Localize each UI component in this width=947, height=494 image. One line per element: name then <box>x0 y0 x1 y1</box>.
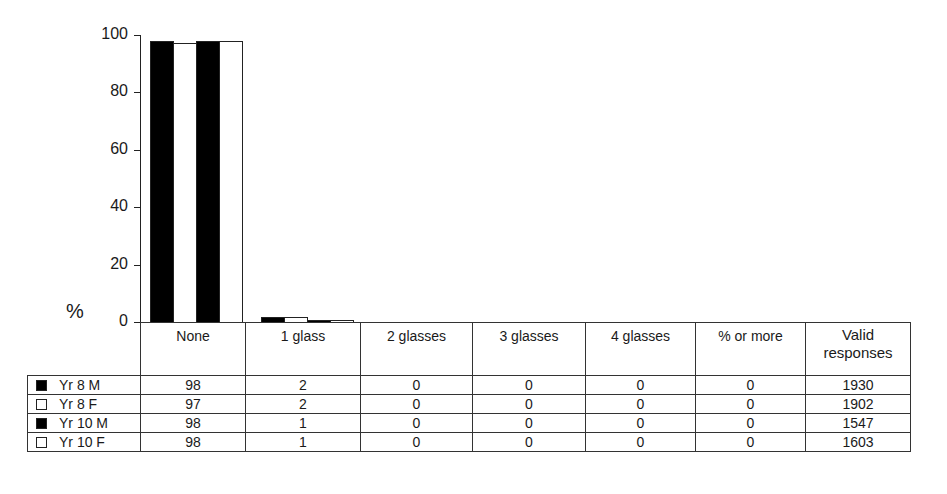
table-cell: 0 <box>586 414 696 433</box>
series-label: Yr 8 F <box>59 396 97 412</box>
table-cell: 98 <box>141 433 246 452</box>
table-cell: 0 <box>696 376 806 395</box>
black-square-icon <box>36 380 47 391</box>
header-2-glasses: 2 glasses <box>361 323 473 376</box>
series-label: Yr 8 M <box>59 377 100 393</box>
table-cell: 1930 <box>806 376 911 395</box>
table-cell: 2 <box>246 395 361 414</box>
legend-cell: Yr 8 M <box>28 376 141 395</box>
table-row: Yr 8 F 97 2 0 0 0 0 1902 <box>28 395 911 414</box>
legend-cell: Yr 10 F <box>28 433 141 452</box>
table-cell: 0 <box>473 414 586 433</box>
valid-header-line2: responses <box>806 344 910 362</box>
y-tick-label: 20 <box>88 255 128 273</box>
data-table: None 1 glass 2 glasses 3 glasses 4 glass… <box>27 322 911 452</box>
y-tick-label: 40 <box>88 197 128 215</box>
table-cell: 1 <box>246 414 361 433</box>
bar-yr10m-none <box>196 41 220 323</box>
y-tick <box>134 92 140 93</box>
header-none: None <box>141 323 246 376</box>
header-1-glass: 1 glass <box>246 323 361 376</box>
bar-yr8m-none <box>150 41 174 323</box>
bar-yr10f-none <box>219 41 243 323</box>
table-cell: 1547 <box>806 414 911 433</box>
table-cell: 1603 <box>806 433 911 452</box>
header-valid-responses: Valid responses <box>806 323 911 376</box>
y-axis-line <box>140 35 141 323</box>
header-5-or-more: % or more <box>696 323 806 376</box>
y-tick-label: 100 <box>88 25 128 43</box>
y-tick-label: 60 <box>88 140 128 158</box>
table-row: Yr 8 M 98 2 0 0 0 0 1930 <box>28 376 911 395</box>
bar-yr8f-none <box>173 43 197 323</box>
table-cell: 0 <box>361 395 473 414</box>
black-square-icon <box>36 418 47 429</box>
table-cell: 0 <box>361 376 473 395</box>
valid-header-line1: Valid <box>806 326 910 344</box>
table-cell: 0 <box>473 433 586 452</box>
legend-cell: Yr 10 M <box>28 414 141 433</box>
header-4-glasses: 4 glasses <box>586 323 696 376</box>
y-tick-label: 80 <box>88 82 128 100</box>
y-tick <box>134 207 140 208</box>
table-cell: 1 <box>246 433 361 452</box>
y-axis-label: % <box>66 300 84 323</box>
table-cell: 0 <box>696 433 806 452</box>
table-row: Yr 10 F 98 1 0 0 0 0 1603 <box>28 433 911 452</box>
table-cell: 0 <box>473 376 586 395</box>
y-tick <box>134 35 140 36</box>
table-header-row: None 1 glass 2 glasses 3 glasses 4 glass… <box>28 323 911 376</box>
legend-cell: Yr 8 F <box>28 395 141 414</box>
table-cell: 0 <box>586 433 696 452</box>
table-cell: 98 <box>141 414 246 433</box>
table-cell: 98 <box>141 376 246 395</box>
header-blank <box>28 323 141 376</box>
table-row: Yr 10 M 98 1 0 0 0 0 1547 <box>28 414 911 433</box>
table-cell: 0 <box>696 395 806 414</box>
table-cell: 0 <box>361 433 473 452</box>
series-label: Yr 10 M <box>59 415 108 431</box>
series-label: Yr 10 F <box>59 434 105 450</box>
table-cell: 97 <box>141 395 246 414</box>
table-cell: 0 <box>361 414 473 433</box>
white-square-icon <box>36 399 47 410</box>
table-cell: 0 <box>696 414 806 433</box>
table-cell: 1902 <box>806 395 911 414</box>
y-tick <box>134 265 140 266</box>
table-cell: 2 <box>246 376 361 395</box>
y-tick <box>134 150 140 151</box>
table-cell: 0 <box>586 395 696 414</box>
table-cell: 0 <box>473 395 586 414</box>
table-cell: 0 <box>586 376 696 395</box>
header-3-glasses: 3 glasses <box>473 323 586 376</box>
white-square-icon <box>36 437 47 448</box>
